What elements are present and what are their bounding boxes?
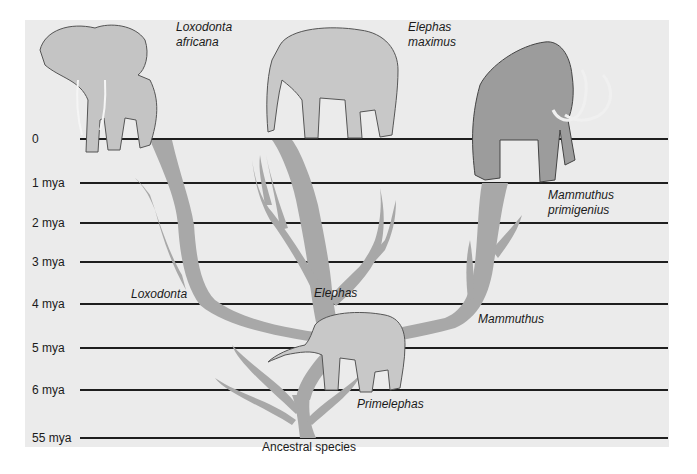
species-epithet: maximus	[408, 35, 456, 50]
species-genus: Loxodonta	[176, 20, 232, 35]
primelephas-illustration	[268, 312, 405, 392]
species-label-elephas-maximus: Elephas maximus	[408, 20, 456, 50]
genus-label-loxodonta: Loxodonta	[131, 287, 187, 301]
species-label-loxodonta-africana: Loxodonta africana	[176, 20, 232, 50]
root-label-ancestral-species: Ancestral species	[262, 440, 356, 454]
woolly-mammoth-illustration	[473, 42, 611, 182]
genus-label-mammuthus: Mammuthus	[478, 312, 544, 326]
african-elephant-illustration	[40, 25, 157, 152]
species-epithet: africana	[176, 35, 232, 50]
species-genus: Elephas	[408, 20, 456, 35]
genus-label-primelephas: Primelephas	[357, 397, 424, 411]
illustrations	[0, 0, 697, 474]
asian-elephant-illustration	[267, 28, 398, 138]
species-genus: Mammuthus	[548, 188, 614, 203]
genus-label-elephas: Elephas	[314, 286, 357, 300]
species-epithet: primigenius	[548, 203, 614, 218]
species-label-mammuthus-primigenius: Mammuthus primigenius	[548, 188, 614, 218]
